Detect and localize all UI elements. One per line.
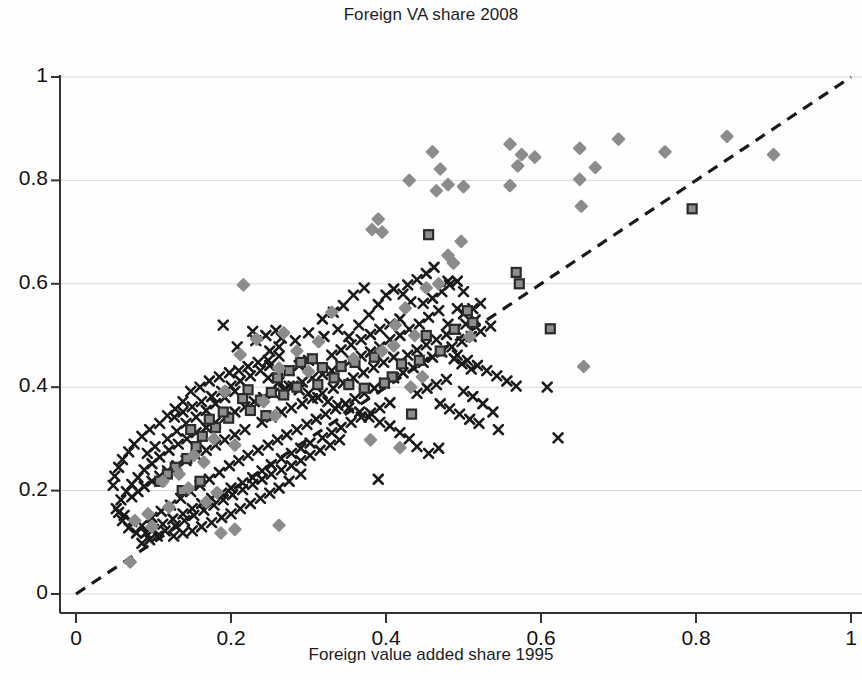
y-tick-label: 0.6 [4, 270, 48, 294]
y-tick-label: 0 [4, 580, 48, 604]
chart-figure: Foreign VA share 2008 00.20.40.60.81 00.… [0, 0, 862, 680]
y-tick-label: 0.2 [4, 477, 48, 501]
y-tick-label: 1 [4, 63, 48, 87]
scatter-plot [0, 0, 862, 680]
y-tick-label: 0.4 [4, 373, 48, 397]
x-axis-title: Foreign value added share 1995 [0, 645, 862, 665]
data-markers [109, 131, 779, 567]
series-cross [109, 263, 563, 548]
y-tick-label: 0.8 [4, 166, 48, 190]
